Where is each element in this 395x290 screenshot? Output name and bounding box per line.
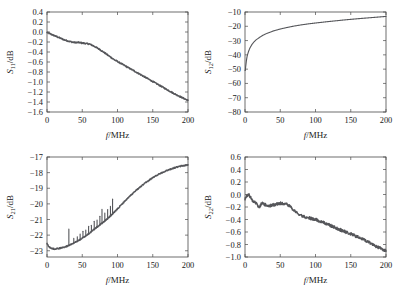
y-tick-label: 0.4 [231, 166, 242, 175]
y-tick-label: −21 [30, 216, 43, 225]
y-tick-label: −0.6 [28, 58, 43, 67]
x-tick-label: 100 [111, 116, 124, 125]
data-curve [47, 165, 188, 250]
x-tick-label: 50 [276, 116, 284, 125]
y-tick-label: −1.0 [226, 253, 241, 262]
y-tick-label: −70 [228, 94, 241, 103]
y-tick-label: 0.4 [33, 8, 44, 17]
x-tick-label: 200 [182, 116, 195, 125]
y-tick-label: −50 [228, 65, 241, 74]
x-tick-label: 150 [146, 261, 159, 270]
x-tick-label: 50 [78, 116, 86, 125]
y-tick-label: −0.8 [28, 68, 43, 77]
x-tick-label: 100 [309, 116, 322, 125]
x-tick-label: 50 [276, 261, 284, 270]
panel-s21: −17−18−19−20−21−22−23050100150200S21/dBf… [0, 145, 197, 290]
x-axis-title: f/MHz [106, 130, 130, 140]
x-tick-label: 200 [182, 261, 195, 270]
y-tick-label: 0.0 [231, 191, 241, 200]
plot-frame [245, 157, 386, 257]
y-tick-label: −0.8 [226, 241, 241, 250]
plot-frame [47, 157, 188, 257]
y-tick-label: −0.4 [28, 48, 44, 57]
y-tick-label: −40 [228, 51, 241, 60]
y-tick-label: 0.2 [231, 178, 241, 187]
y-tick-label: −30 [228, 37, 241, 46]
y-tick-label: 0.0 [33, 28, 43, 37]
y-tick-label: −0.6 [226, 228, 241, 237]
y-tick-label: −20 [30, 200, 43, 209]
y-tick-label: −1.0 [28, 78, 43, 87]
y-axis-title: S21/dB [5, 195, 16, 219]
y-tick-label: −17 [30, 153, 43, 162]
y-tick-label: −0.2 [28, 38, 43, 47]
plot-s22: 0.60.40.20.0−0.2−0.4−0.6−0.8−1.005010015… [198, 145, 395, 290]
plot-s21: −17−18−19−20−21−22−23050100150200S21/dBf… [0, 145, 197, 290]
x-axis-title: f/MHz [106, 275, 130, 285]
y-tick-label: −60 [228, 79, 241, 88]
x-tick-label: 0 [45, 261, 49, 270]
y-tick-label: −22 [30, 231, 43, 240]
x-axis-title: f/MHz [304, 275, 328, 285]
x-tick-label: 150 [344, 116, 357, 125]
x-tick-label: 200 [380, 116, 393, 125]
y-tick-label: −19 [30, 184, 43, 193]
x-tick-label: 100 [309, 261, 322, 270]
data-curve [245, 16, 386, 70]
x-tick-label: 150 [344, 261, 357, 270]
x-axis-title: f/MHz [304, 130, 328, 140]
x-tick-label: 0 [243, 116, 247, 125]
x-tick-label: 150 [146, 116, 159, 125]
y-tick-label: −20 [228, 22, 241, 31]
y-axis-title: S22/dB [203, 195, 214, 219]
y-tick-label: −0.4 [226, 216, 242, 225]
y-tick-label: −18 [30, 169, 43, 178]
x-tick-label: 50 [78, 261, 86, 270]
x-tick-label: 0 [45, 116, 49, 125]
x-tick-label: 0 [243, 261, 247, 270]
x-tick-label: 200 [380, 261, 393, 270]
y-tick-label: −23 [30, 247, 43, 256]
y-tick-label: −10 [228, 8, 241, 17]
data-curve [47, 32, 188, 100]
plot-s12: −10−20−30−40−50−60−70−80050100150200S12/… [198, 0, 395, 145]
y-tick-label: 0.6 [231, 153, 241, 162]
y-tick-label: −1.4 [28, 98, 44, 107]
y-axis-title: S11/dB [5, 50, 16, 74]
panel-s11: 0.40.20.0−0.2−0.4−0.6−0.8−1.0−1.2−1.4−1.… [0, 0, 197, 145]
x-tick-label: 100 [111, 261, 124, 270]
plot-frame [245, 12, 386, 112]
data-curve [245, 194, 386, 252]
y-axis-title: S12/dB [203, 50, 214, 74]
plot-s11: 0.40.20.0−0.2−0.4−0.6−0.8−1.0−1.2−1.4−1.… [0, 0, 197, 145]
y-tick-label: −1.6 [28, 108, 43, 117]
y-tick-label: −1.2 [28, 88, 43, 97]
y-tick-label: −0.2 [226, 203, 241, 212]
panel-s12: −10−20−30−40−50−60−70−80050100150200S12/… [198, 0, 395, 145]
y-tick-label: 0.2 [33, 18, 43, 27]
panel-s22: 0.60.40.20.0−0.2−0.4−0.6−0.8−1.005010015… [198, 145, 395, 290]
s-parameter-figure: 0.40.20.0−0.2−0.4−0.6−0.8−1.0−1.2−1.4−1.… [0, 0, 395, 290]
y-tick-label: −80 [228, 108, 241, 117]
